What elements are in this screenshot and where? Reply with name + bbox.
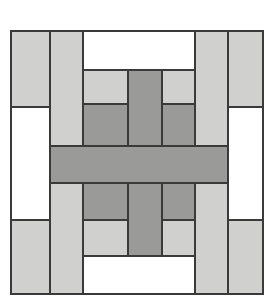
- center-bottom-white: [83, 256, 195, 294]
- inner-left-lower-dark: [83, 183, 128, 220]
- col5-top-light: [228, 31, 263, 107]
- pattern-canvas: [0, 0, 274, 304]
- inner-right-lower-light: [162, 220, 195, 256]
- col4-lower-light: [195, 183, 228, 294]
- col5-bottom-light: [228, 220, 263, 294]
- col5-middle-white: [228, 107, 263, 220]
- inner-right-upper-light: [162, 70, 195, 104]
- inner-left-upper-light: [83, 70, 128, 104]
- inner-right-upper-dark: [162, 104, 195, 146]
- center-vertical-bar-upper: [128, 70, 162, 146]
- col4-upper-light: [195, 31, 228, 146]
- center-horizontal-bar: [50, 146, 228, 183]
- center-top-white: [83, 31, 195, 70]
- inner-left-lower-light: [83, 220, 128, 256]
- col1-bottom-light: [11, 220, 50, 294]
- col1-top-light: [11, 31, 50, 107]
- col2-lower-light: [50, 183, 83, 294]
- col2-upper-light: [50, 31, 83, 146]
- shape-layer: [11, 31, 263, 294]
- center-vertical-bar-lower: [128, 183, 162, 256]
- pattern-figure: Patchwork Block Pattern Symmetric quilt-…: [0, 0, 274, 304]
- inner-left-upper-dark: [83, 104, 128, 146]
- inner-right-lower-dark: [162, 183, 195, 220]
- col1-middle-white: [11, 107, 50, 220]
